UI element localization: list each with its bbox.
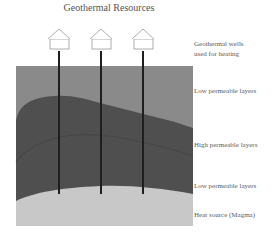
geothermal-cross-section (0, 0, 276, 238)
label-wells-line2: used for heating (194, 50, 239, 59)
house-icon (132, 29, 154, 49)
house-icon (48, 29, 70, 49)
house-icon (90, 29, 112, 49)
label-heat-source: Heat source (Magma) (194, 211, 255, 220)
label-lower-low-permeable: Low permeable layers (194, 182, 256, 191)
label-upper-low-permeable: Low permeable layers (194, 87, 256, 96)
label-wells-line1: Geothermal wells (194, 40, 244, 49)
label-high-permeable: High permeable layers (194, 141, 257, 150)
